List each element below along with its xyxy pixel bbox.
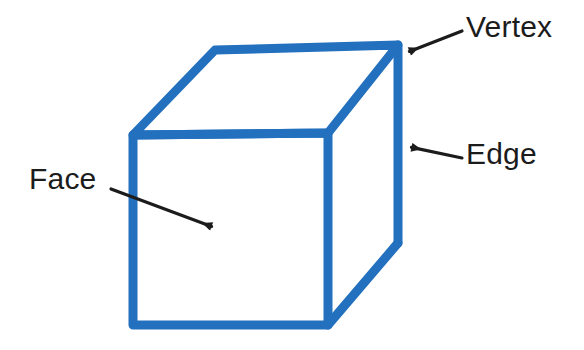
cube-diagram: Vertex Edge Face (0, 0, 584, 350)
face-label: Face (29, 164, 97, 194)
edge-arrow (411, 147, 462, 158)
edge-label: Edge (466, 139, 537, 169)
cube-front-face (133, 133, 328, 325)
vertex-label: Vertex (466, 12, 552, 42)
vertex-arrow (409, 31, 462, 51)
